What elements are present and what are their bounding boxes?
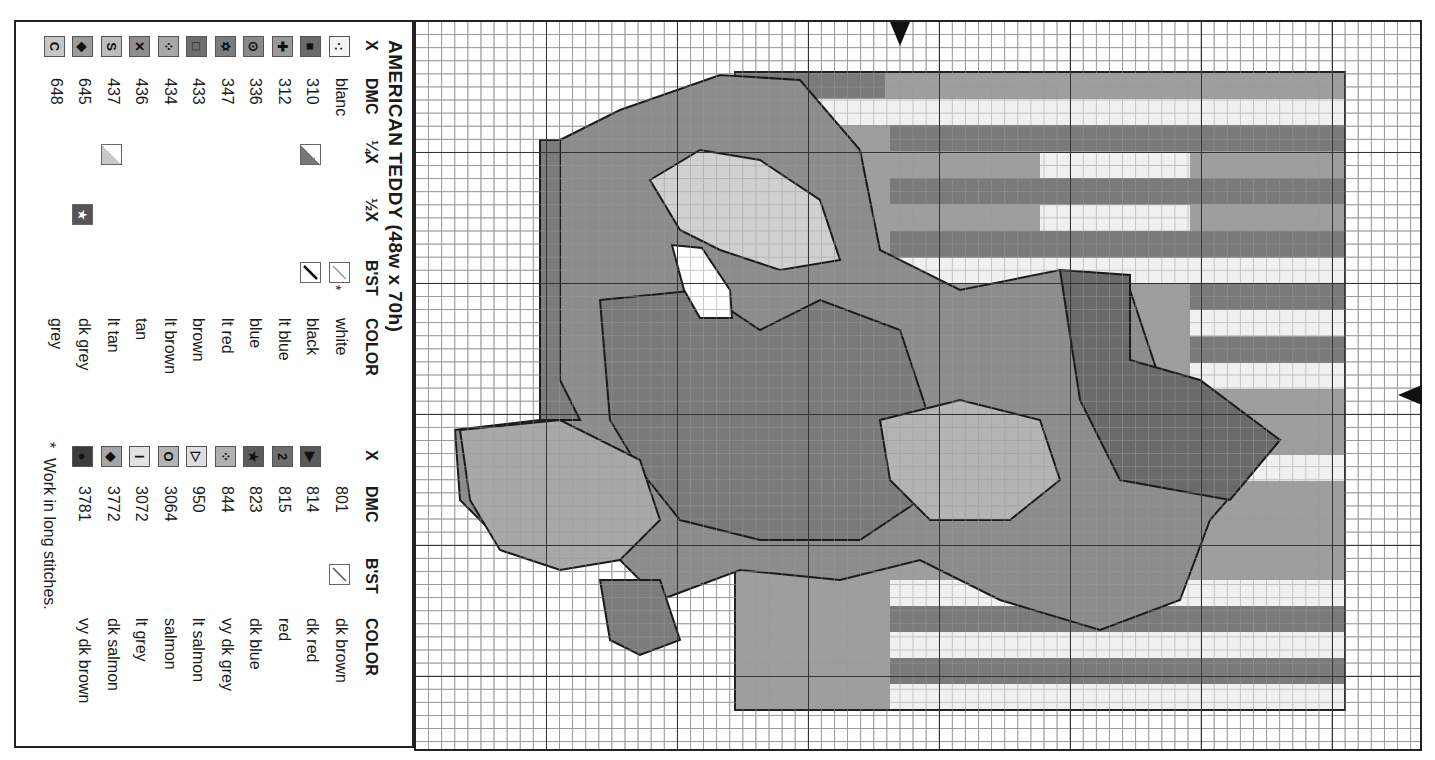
center-marker-right-icon	[1398, 385, 1422, 405]
grid-minor-overlay	[416, 22, 1420, 749]
center-marker-top-icon	[890, 22, 910, 46]
stitch-chart-overlay	[414, 20, 1422, 751]
